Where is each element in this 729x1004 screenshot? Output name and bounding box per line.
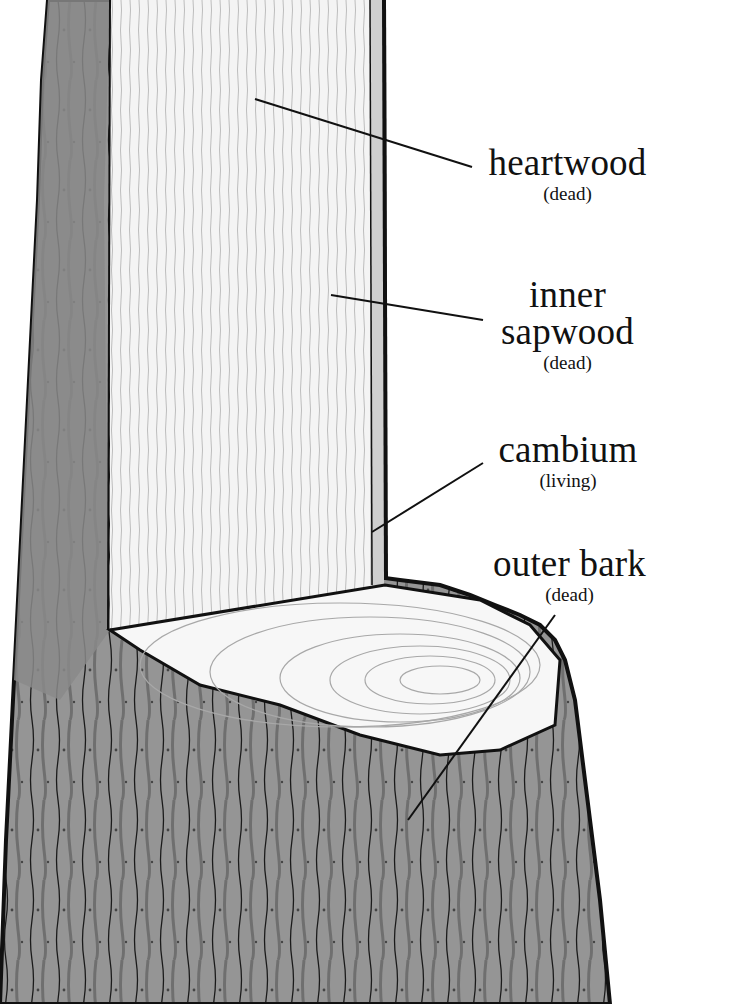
label-inner-sapwood: inner sapwood (dead) — [490, 276, 645, 372]
label-heartwood-state: (dead) — [480, 184, 655, 203]
label-inner-sapwood-state: (dead) — [490, 353, 645, 372]
bark-side-band — [14, 0, 110, 700]
label-heartwood: heartwood (dead) — [480, 144, 655, 203]
label-outer-bark-state: (dead) — [482, 585, 657, 604]
label-cambium-name: cambium — [488, 431, 648, 468]
label-outer-bark-name: outer bark — [482, 545, 657, 582]
label-cambium-state: (living) — [488, 471, 648, 490]
label-inner-sapwood-line1: inner — [490, 276, 645, 313]
label-outer-bark: outer bark (dead) — [482, 545, 657, 604]
label-cambium: cambium (living) — [488, 431, 648, 490]
heartwood-face — [110, 0, 380, 628]
cambium-leader — [372, 463, 483, 532]
label-inner-sapwood-line2: sapwood — [490, 313, 645, 350]
label-heartwood-name: heartwood — [480, 144, 655, 181]
